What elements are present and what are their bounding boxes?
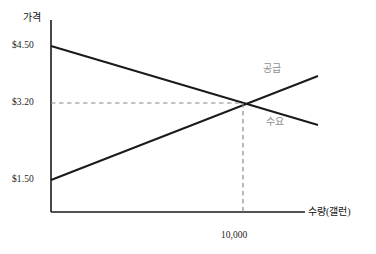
- demand-curve: [51, 46, 318, 125]
- demand-curve-label: 수요: [266, 117, 284, 127]
- supply-demand-chart: 가격 $4.50 $3.20 $1.50 수량(갤런) 10,000 공급 수요: [0, 0, 376, 254]
- supply-curve-label: 공급: [263, 64, 281, 74]
- x-axis-title: 수량(갤런): [308, 207, 351, 217]
- y-tick-label-320: $3.20: [12, 98, 34, 108]
- y-tick-label-450: $4.50: [12, 41, 34, 51]
- y-axis-title: 가격: [23, 13, 41, 23]
- supply-curve: [51, 76, 318, 180]
- x-tick-label-equilibrium: 10,000: [221, 231, 247, 241]
- y-tick-label-150: $1.50: [12, 175, 34, 185]
